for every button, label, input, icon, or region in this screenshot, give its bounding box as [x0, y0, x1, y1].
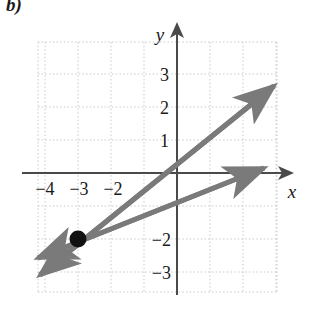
x-tick-label-neg3: −3: [69, 179, 88, 199]
y-axis-label: y: [154, 24, 165, 45]
x-axis-label: x: [287, 181, 297, 202]
grid-lines: [38, 42, 277, 292]
y-tick-label-2: 2: [160, 98, 169, 118]
figure-container: b): [0, 0, 312, 314]
x-tick-label-neg2: −2: [103, 179, 122, 199]
y-tick-label-neg3: −3: [152, 263, 171, 283]
intersection-point: [70, 231, 87, 248]
coordinate-plane-graph: y x 3 2 1 −2 −3 −4 −3 −2: [0, 0, 312, 314]
x-tick-label-neg4: −4: [35, 179, 54, 199]
y-tick-label-neg2: −2: [152, 230, 171, 250]
y-tick-label-3: 3: [160, 65, 169, 85]
y-tick-label-1: 1: [160, 131, 169, 151]
